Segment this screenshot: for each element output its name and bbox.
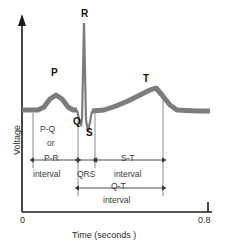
- x-axis-tick-max: 0.8: [198, 216, 211, 225]
- x-axis-tick-min: 0: [20, 216, 25, 225]
- ecg-diagram-canvas: [0, 0, 234, 248]
- y-axis: [18, 14, 26, 212]
- y-axis-label: Voltage: [12, 125, 22, 155]
- wave-label-r: R: [81, 9, 88, 19]
- qrs-complex: [77, 23, 92, 131]
- pq-label: P-Q: [40, 125, 55, 134]
- qt-interval-word: interval: [103, 196, 130, 205]
- pq-or-label: or: [47, 139, 55, 148]
- ecg-diagram-figure: P R Q S T P-Q or P-R interval QRS S-T in…: [0, 0, 234, 248]
- ecg-trace: [22, 95, 77, 110]
- wave-label-t: T: [143, 74, 149, 84]
- qrs-label: QRS: [77, 170, 95, 179]
- wave-label-q: Q: [73, 117, 81, 127]
- pr-interval-word: interval: [33, 170, 60, 179]
- pr-arrow-label: P-R: [44, 154, 59, 163]
- x-axis-label: Time (seconds ): [72, 231, 136, 240]
- wave-label-p: P: [51, 68, 58, 78]
- wave-label-s: S: [86, 128, 93, 138]
- y-axis-arrowhead: [18, 14, 26, 26]
- qt-arrow-label: Q-T: [111, 182, 126, 191]
- st-arrow-label: S-T: [121, 154, 135, 163]
- ecg-trace-st-t: [92, 88, 210, 111]
- st-interval-word: interval: [114, 170, 141, 179]
